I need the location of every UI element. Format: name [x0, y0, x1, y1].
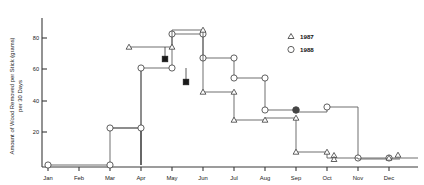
data-point-1988-jul-late [231, 75, 237, 81]
y-tick-label-60: 60 [33, 66, 39, 72]
series-1988-step-line [48, 34, 418, 165]
x-label-sep: Sep [291, 175, 302, 181]
data-point-1988-jan [45, 162, 51, 168]
data-point-1988-apr [138, 125, 144, 131]
legend-circle-icon [288, 46, 294, 52]
chart-figure: Amount of Wood Removed per Stick (grams)… [0, 0, 424, 185]
data-point-1988-mar-late [107, 125, 113, 131]
data-point-1988-aug-late [262, 107, 268, 113]
x-label-mar: Mar [105, 175, 115, 181]
data-point-1988-sep [293, 107, 300, 114]
data-point-1988-apr-late [138, 65, 144, 71]
chart-legend: 1987 1988 [288, 33, 314, 53]
x-label-aug: Aug [260, 175, 270, 181]
error-marker-1988-may [183, 79, 189, 85]
x-label-may: May [166, 175, 177, 181]
x-label-feb: Feb [74, 175, 85, 181]
data-point-1988-aug [262, 75, 268, 81]
legend-label-1988: 1988 [300, 46, 314, 53]
x-label-apr: Apr [136, 175, 145, 181]
y-tick-label-20: 20 [33, 129, 39, 135]
legend-triangle-icon [288, 34, 294, 39]
data-point-1988-oct [324, 104, 330, 110]
data-point-1988-may [169, 65, 175, 71]
data-point-1988-mar [107, 162, 113, 168]
x-label-jun: Jun [198, 175, 208, 181]
y-tick-label-80: 80 [33, 35, 39, 41]
y-axis-label-line1: Amount of Wood Removed per Stick (grams) [9, 37, 15, 154]
error-marker-1987-apr [162, 56, 168, 62]
x-label-oct: Oct [322, 175, 332, 181]
x-label-jul: Jul [230, 175, 238, 181]
y-tick-group: 80 60 40 20 [33, 35, 47, 135]
x-label-jan: Jan [43, 175, 53, 181]
x-label-dec: Dec [384, 175, 395, 181]
x-axis-labels: Jan Feb Mar Apr May Jun Jul Aug Sep Oct … [43, 175, 394, 181]
series-1988-markers [45, 31, 392, 168]
x-tick-group [48, 167, 389, 171]
y-axis-label-line2: per 30 Days [17, 80, 23, 112]
error-bar-group [162, 47, 189, 85]
legend-label-1987: 1987 [300, 33, 314, 40]
data-point-1988-jul [231, 55, 237, 61]
data-point-1987-dec [395, 152, 401, 157]
y-tick-label-40: 40 [33, 98, 39, 104]
x-label-nov: Nov [353, 175, 364, 181]
wood-removal-step-chart: Amount of Wood Removed per Stick (grams)… [0, 0, 424, 185]
